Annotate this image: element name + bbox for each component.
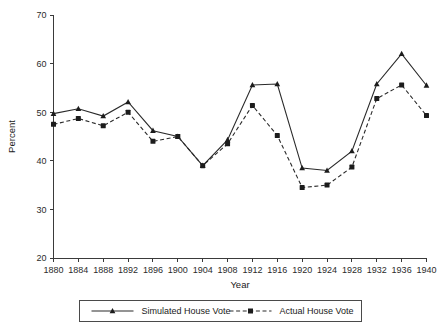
data-point-marker xyxy=(76,106,82,111)
y-tick-label: 40 xyxy=(36,156,46,166)
y-axis-title: Percent xyxy=(6,120,17,153)
data-point-marker xyxy=(275,133,280,138)
y-tick-label: 20 xyxy=(36,253,46,263)
data-point-marker xyxy=(325,183,330,188)
data-point-marker xyxy=(175,134,180,139)
x-tick-label: 1892 xyxy=(118,265,138,275)
y-tick-label: 70 xyxy=(36,10,46,20)
x-tick-label: 1924 xyxy=(317,265,337,275)
data-point-marker xyxy=(399,82,404,87)
legend: Simulated House VoteActual House Vote xyxy=(80,301,362,322)
legend-label: Actual House Vote xyxy=(280,306,354,316)
data-point-marker xyxy=(299,165,305,170)
data-point-marker xyxy=(51,122,56,127)
data-point-marker xyxy=(101,123,106,128)
data-point-marker xyxy=(300,185,305,190)
legend-label: Simulated House Vote xyxy=(142,306,231,316)
x-tick-label: 1884 xyxy=(68,265,88,275)
data-point-marker xyxy=(424,113,429,118)
y-axis: 203040506070Percent xyxy=(6,10,54,263)
series-actual xyxy=(51,82,429,190)
x-tick-label: 1888 xyxy=(93,265,113,275)
x-tick-label: 1908 xyxy=(218,265,238,275)
data-point-marker xyxy=(225,141,230,146)
x-axis-title: Year xyxy=(230,279,249,290)
data-point-marker xyxy=(126,110,131,115)
y-tick-label: 60 xyxy=(36,59,46,69)
y-tick-label: 30 xyxy=(36,205,46,215)
x-tick-label: 1880 xyxy=(43,265,63,275)
data-point-marker xyxy=(399,51,405,56)
series-line xyxy=(54,54,427,171)
x-axis: 1880188418881892189619001904190819121916… xyxy=(43,258,436,290)
axis-lines xyxy=(54,15,427,258)
x-tick-label: 1940 xyxy=(416,265,436,275)
x-tick-label: 1932 xyxy=(367,265,387,275)
x-tick-label: 1928 xyxy=(342,265,362,275)
y-tick-label: 50 xyxy=(36,108,46,118)
x-tick-label: 1900 xyxy=(168,265,188,275)
x-tick-label: 1936 xyxy=(392,265,412,275)
data-point-marker xyxy=(349,148,355,153)
data-point-marker xyxy=(125,99,131,104)
x-tick-label: 1920 xyxy=(292,265,312,275)
x-tick-label: 1896 xyxy=(143,265,163,275)
line-chart: 203040506070Percent188018841888189218961… xyxy=(0,0,439,327)
data-point-marker xyxy=(76,116,81,121)
x-tick-label: 1904 xyxy=(193,265,213,275)
x-tick-label: 1916 xyxy=(267,265,287,275)
data-point-marker xyxy=(250,103,255,108)
data-point-marker xyxy=(150,139,155,144)
legend-marker xyxy=(248,309,253,314)
axes-group xyxy=(54,15,427,258)
data-point-marker xyxy=(349,165,354,170)
x-tick-label: 1912 xyxy=(242,265,262,275)
chart-container: 203040506070Percent188018841888189218961… xyxy=(0,0,439,327)
data-point-marker xyxy=(200,163,205,168)
data-point-marker xyxy=(374,96,379,101)
